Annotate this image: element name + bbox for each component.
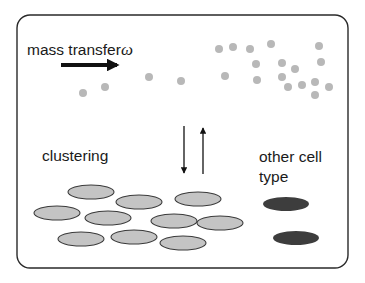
scattered-cell-dot (267, 40, 275, 48)
clustered-cell (175, 192, 221, 206)
scattered-cell-dot (284, 83, 292, 91)
clustered-cell (160, 236, 206, 250)
scattered-cell-dot (252, 60, 260, 68)
scattered-cell-dot (311, 78, 319, 86)
scattered-cell-dot (101, 83, 109, 91)
clustered-cell (34, 206, 80, 220)
scattered-cell-dot (79, 89, 87, 97)
scattered-cell-dot (229, 43, 237, 51)
clustered-cell (116, 195, 162, 209)
scattered-cell-dot (246, 45, 254, 53)
scattered-cell-dot (317, 58, 325, 66)
clustered-cell (151, 214, 197, 228)
other-cell-type-label-line1: other cell (259, 148, 322, 165)
other-cells-group (263, 197, 319, 245)
scattered-cell-dot (325, 83, 333, 91)
clustered-cell (197, 216, 243, 230)
other-cell (263, 197, 309, 211)
scattered-cell-dot (221, 72, 229, 80)
scattered-cell-dot (298, 81, 306, 89)
scattered-cell-dot (311, 91, 319, 99)
scattered-cell-dot (315, 42, 323, 50)
other-cell-type-label-line2: type (259, 168, 288, 185)
mass-transfer-label: mass transferω (27, 40, 133, 59)
scattered-cell-dot (177, 77, 185, 85)
scattered-cell-dot (278, 73, 286, 81)
scattered-cell-dot (278, 59, 286, 67)
other-cell (273, 231, 319, 245)
clustered-cell (85, 211, 131, 225)
scattered-cell-dot (215, 45, 223, 53)
diagram-canvas: mass transferω clustering other cell typ… (0, 0, 365, 283)
clustered-cell (111, 230, 157, 244)
scattered-cell-dot (253, 76, 261, 84)
clustered-cell (68, 185, 114, 199)
omega-symbol: ω (121, 40, 133, 59)
clustering-label: clustering (42, 147, 108, 164)
scattered-cell-dot (145, 73, 153, 81)
clustered-cells-group (34, 185, 243, 250)
scattered-cell-dot (291, 65, 299, 73)
clustered-cell (58, 232, 104, 246)
